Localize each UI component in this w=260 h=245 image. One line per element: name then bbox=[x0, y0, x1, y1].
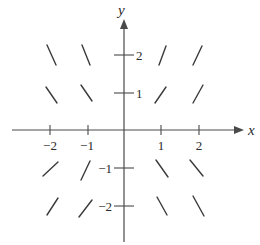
x-axis-label: x bbox=[247, 122, 255, 138]
y-tick-label: 1 bbox=[136, 86, 143, 101]
slope-segment bbox=[159, 46, 166, 65]
y-axis: y 2 1 −1 −2 bbox=[98, 2, 142, 242]
slope-segment bbox=[81, 85, 92, 101]
y-axis-arrow-icon bbox=[120, 19, 128, 29]
slope-segment bbox=[156, 160, 168, 177]
slope-segment bbox=[47, 45, 56, 65]
y-tick-label: 2 bbox=[136, 48, 143, 63]
slope-segment bbox=[193, 46, 202, 65]
x-tick-label: −2 bbox=[43, 138, 57, 153]
x-tick-label: 2 bbox=[196, 138, 203, 153]
slope-field-diagram: x −2 −1 1 2 y 2 1 −1 −2 bbox=[0, 0, 260, 245]
x-axis-arrow-icon bbox=[234, 126, 244, 134]
slope-segment bbox=[79, 200, 92, 217]
slope-segment bbox=[190, 160, 203, 176]
slope-segment bbox=[82, 45, 90, 65]
x-tick-label: −1 bbox=[80, 138, 94, 153]
slope-segment bbox=[193, 85, 203, 103]
y-axis-label: y bbox=[116, 2, 125, 18]
y-tick-label: −1 bbox=[98, 161, 112, 176]
x-axis: x −2 −1 1 2 bbox=[12, 122, 255, 153]
slope-segment bbox=[193, 196, 204, 216]
y-tick-label: −2 bbox=[98, 199, 112, 214]
slope-segment bbox=[81, 161, 90, 180]
slope-segment bbox=[155, 87, 166, 103]
slope-segment bbox=[43, 162, 58, 176]
slope-segment bbox=[157, 197, 167, 215]
x-tick-label: 1 bbox=[158, 138, 165, 153]
slope-segment bbox=[47, 198, 58, 215]
slope-segment bbox=[46, 87, 57, 103]
